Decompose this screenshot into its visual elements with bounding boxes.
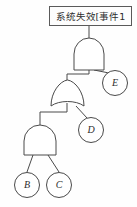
event-circle-b[interactable]: B <box>15 173 40 198</box>
event-label-b: B <box>24 179 30 190</box>
gate-bottom-and[interactable] <box>24 125 56 155</box>
event-circle-d[interactable]: D <box>79 118 104 143</box>
event-label-e: E <box>111 77 118 88</box>
event-circle-e[interactable]: E <box>103 71 128 96</box>
top-event-label: 系统失效[事件1 <box>56 11 126 22</box>
and-gate-icon <box>74 38 104 70</box>
connector-middle-gate-to-event-d <box>76 106 87 118</box>
or-gate-icon <box>51 80 84 106</box>
fault-tree-svg: 系统失效[事件1 E D B C <box>0 0 137 207</box>
top-event-box[interactable]: 系统失效[事件1 <box>50 7 132 26</box>
event-label-d: D <box>86 124 95 135</box>
gate-top-and[interactable] <box>74 38 104 70</box>
event-circle-c[interactable]: C <box>47 173 72 198</box>
gate-middle-or[interactable] <box>51 80 84 106</box>
fault-tree-diagram: 系统失效[事件1 E D B C <box>0 0 137 207</box>
and-gate-icon <box>24 125 56 155</box>
event-label-c: C <box>56 179 63 190</box>
connector-bottom-gate-to-event-b <box>27 155 33 172</box>
connector-bottom-gate-to-event-c <box>48 155 59 172</box>
